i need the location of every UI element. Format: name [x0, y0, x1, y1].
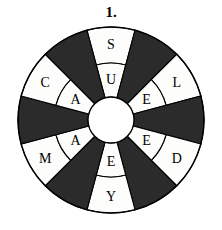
letter-outer-C-10: C — [41, 75, 50, 90]
letter-inner-U-0: U — [106, 72, 116, 87]
letter-outer-L-2: L — [173, 75, 182, 90]
letter-inner-A-8: A — [70, 133, 81, 148]
letter-outer-D-4: D — [172, 151, 182, 166]
letter-outer-S-0: S — [107, 37, 115, 52]
letter-inner-A-10: A — [70, 92, 81, 107]
word-wheel-graphic: SULEDEYEMACA — [0, 0, 222, 230]
wheel-hub — [88, 97, 134, 143]
letter-outer-Y-6: Y — [106, 189, 116, 204]
letter-inner-E-2: E — [142, 92, 151, 107]
letter-outer-M-8: M — [39, 151, 52, 166]
letter-inner-E-4: E — [142, 133, 151, 148]
puzzle-wheel-figure: 1. SULEDEYEMACA — [0, 0, 222, 230]
letter-inner-E-6: E — [107, 154, 116, 169]
